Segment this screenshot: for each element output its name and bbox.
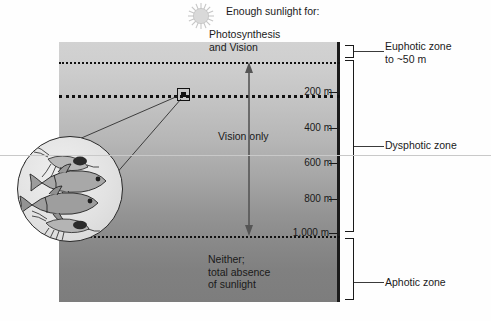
ocean-light-zones-diagram: Enough sunlight for: Photosynthesis and … xyxy=(0,0,491,321)
scan-artifact-line xyxy=(0,155,491,156)
magnified-organisms-inset xyxy=(17,136,123,242)
magnifier-source-dot xyxy=(181,92,186,97)
